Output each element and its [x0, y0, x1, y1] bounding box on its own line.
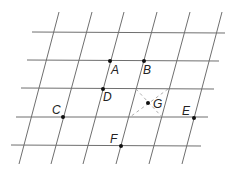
point-label-d: D [103, 91, 112, 103]
grid-canvas [0, 0, 232, 172]
slanted-grid-line [149, 12, 190, 164]
point-c [61, 115, 65, 119]
horizontal-grid-line [21, 88, 214, 89]
point-label-c: C [52, 104, 61, 116]
slanted-grid-line [182, 12, 222, 164]
oblique-grid-diagram: ABCDEFG [0, 0, 232, 172]
point-e [192, 116, 196, 120]
point-label-a: A [111, 64, 119, 76]
horizontal-grid-line [32, 32, 225, 33]
point-label-f: F [110, 133, 117, 145]
point-label-b: B [143, 64, 151, 76]
slanted-grid-line [116, 12, 157, 164]
point-f [119, 144, 123, 148]
horizontal-grid-line [11, 145, 201, 146]
horizontal-grid-line [27, 60, 219, 61]
point-label-g: G [153, 98, 162, 110]
point-g [146, 101, 150, 105]
point-label-e: E [182, 105, 190, 117]
